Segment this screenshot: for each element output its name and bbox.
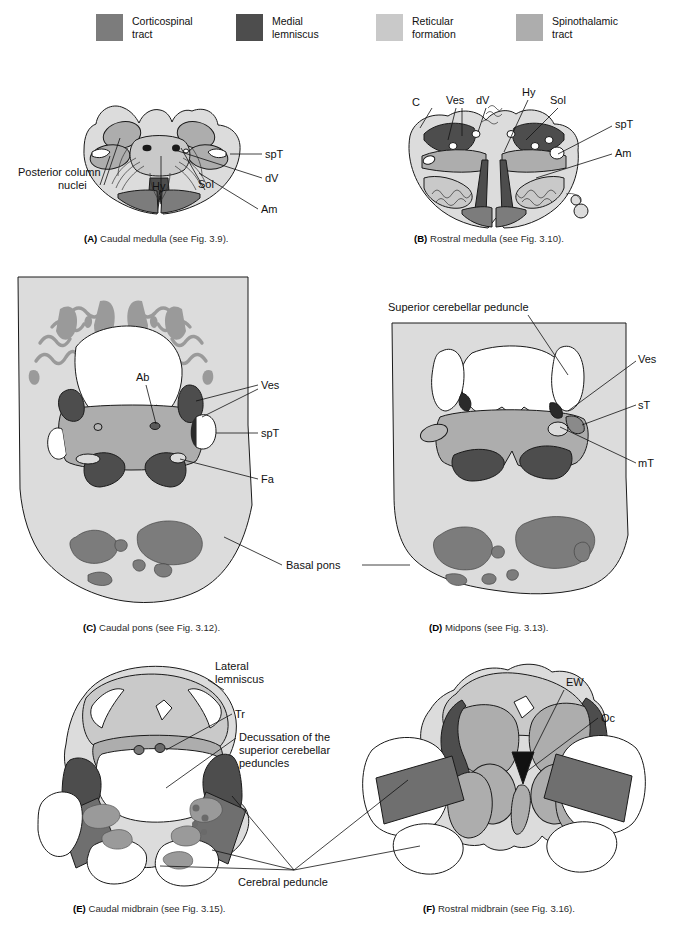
panel-d-caption-prefix: (D): [429, 622, 442, 633]
panel-b-diagram: C Ves dV Hy Sol spT Am: [336, 78, 673, 258]
label-c: C: [412, 96, 420, 108]
label-decussation-line3: peduncles: [239, 757, 290, 769]
label-hy: Hy: [152, 180, 166, 192]
label-decussation-line1: Decussation of the: [239, 731, 330, 743]
panel-a-caption: (A) Caudal medulla (see Fig. 3.9).: [84, 233, 229, 244]
label-posterior-column-nuclei-line1: Posterior column: [18, 166, 101, 178]
label-am: Am: [261, 203, 278, 215]
panel-b-caption: (B) Rostral medulla (see Fig. 3.10).: [414, 233, 564, 244]
label-cerebral-peduncle: Cerebral peduncle: [238, 876, 328, 888]
panel-e-caption: (E) Caudal midbrain (see Fig. 3.15).: [73, 903, 226, 914]
section-a-body: [84, 106, 240, 214]
panel-e-caption-text: Caudal midbrain (see Fig. 3.15).: [88, 903, 225, 914]
panel-e-caption-prefix: (E): [73, 903, 86, 914]
label-posterior-column-nuclei-line2: nuclei: [58, 179, 87, 191]
panel-d-midpons: Superior cerebellar peduncle Ves sT mT: [336, 265, 673, 615]
panel-e-caudal-midbrain: Lateral lemniscus Tr Decussation of the …: [0, 648, 336, 898]
legend-item-medial-lemniscus: Medial lemniscus: [236, 14, 376, 41]
label-sol-b: Sol: [550, 94, 566, 106]
legend: Corticospinal tract Medial lemniscus Ret…: [96, 14, 656, 52]
label-dv: dV: [265, 172, 279, 184]
label-mt: mT: [638, 457, 654, 469]
panel-c-caudal-pons: Ab Ves spT Fa Basal pons: [0, 265, 336, 615]
label-am-b: Am: [615, 147, 632, 159]
label-spt: spT: [265, 148, 284, 160]
label-ves: Ves: [446, 94, 465, 106]
legend-swatch-spinothalamic: [516, 14, 543, 41]
section-b-body: [409, 106, 588, 229]
legend-item-corticospinal: Corticospinal tract: [96, 14, 236, 41]
legend-item-spinothalamic: Spinothalamic tract: [516, 14, 656, 41]
legend-label-reticular-formation: Reticular formation: [412, 14, 456, 40]
panel-a-diagram: Posterior column nuclei Hy Sol spT dV Am: [0, 78, 336, 258]
legend-item-reticular-formation: Reticular formation: [376, 14, 516, 41]
panel-c-diagram: Ab Ves spT Fa Basal pons: [0, 265, 336, 615]
label-sol: Sol: [198, 178, 214, 190]
figure-root: Corticospinal tract Medial lemniscus Ret…: [0, 0, 673, 931]
label-hy-b: Hy: [522, 86, 536, 98]
panel-f-caption-text: Rostral midbrain (see Fig. 3.16).: [438, 903, 575, 914]
label-lateral-lemniscus-line1: Lateral: [215, 660, 249, 672]
panel-f-rostral-midbrain: EW Oc: [336, 648, 673, 898]
label-spt-b: spT: [615, 118, 634, 130]
label-basal-pons: Basal pons: [286, 559, 341, 571]
panel-a-caption-prefix: (A): [84, 233, 97, 244]
label-spt-c: spT: [261, 427, 280, 439]
label-lateral-lemniscus-line2: lemniscus: [215, 673, 264, 685]
panel-b-rostral-medulla: C Ves dV Hy Sol spT Am: [336, 78, 673, 258]
label-ab: Ab: [136, 371, 149, 383]
section-d-body: [392, 323, 628, 594]
label-oc: Oc: [601, 712, 616, 724]
label-ew: EW: [566, 676, 584, 688]
panel-b-caption-text: Rostral medulla (see Fig. 3.10).: [430, 233, 564, 244]
panel-a-caudal-medulla: Posterior column nuclei Hy Sol spT dV Am: [0, 78, 336, 258]
legend-swatch-reticular: [376, 14, 403, 41]
panel-d-caption: (D) Midpons (see Fig. 3.13).: [429, 622, 548, 633]
label-dv-b: dV: [476, 94, 490, 106]
panel-d-caption-text: Midpons (see Fig. 3.13).: [445, 622, 548, 633]
panel-a-caption-text: Caudal medulla (see Fig. 3.9).: [100, 233, 229, 244]
legend-swatch-medial-lemniscus: [236, 14, 263, 41]
label-superior-cerebellar-peduncle: Superior cerebellar peduncle: [388, 301, 529, 313]
label-decussation-line2: superior cerebellar: [239, 744, 330, 756]
legend-label-corticospinal: Corticospinal tract: [132, 14, 193, 40]
panel-d-diagram: Superior cerebellar peduncle Ves sT mT: [336, 265, 673, 615]
panel-f-caption: (F) Rostral midbrain (see Fig. 3.16).: [423, 903, 575, 914]
legend-label-medial-lemniscus: Medial lemniscus: [272, 14, 319, 40]
panel-f-diagram: EW Oc: [336, 648, 673, 898]
panel-c-caption-prefix: (C): [83, 622, 96, 633]
label-ves-c: Ves: [261, 379, 280, 391]
legend-swatch-corticospinal: [96, 14, 123, 41]
panel-b-caption-prefix: (B): [414, 233, 427, 244]
label-ves-d: Ves: [638, 353, 657, 365]
panel-e-diagram: Lateral lemniscus Tr Decussation of the …: [0, 648, 336, 898]
panel-c-caption: (C) Caudal pons (see Fig. 3.12).: [83, 622, 220, 633]
section-e-body: [38, 666, 249, 886]
section-f-body: [363, 664, 646, 874]
label-st: sT: [638, 399, 651, 411]
legend-label-spinothalamic: Spinothalamic tract: [552, 14, 618, 40]
panel-f-caption-prefix: (F): [423, 903, 435, 914]
section-c-body: [18, 277, 252, 603]
panel-c-caption-text: Caudal pons (see Fig. 3.12).: [99, 622, 220, 633]
label-fa: Fa: [261, 473, 275, 485]
label-tr: Tr: [235, 708, 245, 720]
